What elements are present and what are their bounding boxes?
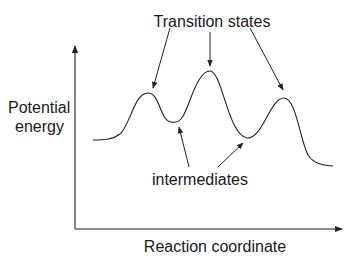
ts-arrow-3 (250, 28, 283, 90)
intermediates-label: intermediates (152, 171, 248, 188)
energy-curve (93, 71, 333, 166)
energy-diagram: Transition states intermediates Potentia… (0, 0, 349, 262)
y-axis-label-line2: energy (15, 118, 64, 135)
x-axis-label: Reaction coordinate (144, 238, 286, 255)
int-arrow-2 (218, 143, 243, 167)
int-arrow-1 (179, 127, 189, 167)
y-axis-label-line1: Potential (8, 99, 70, 116)
ts-arrow-1 (153, 28, 170, 88)
transition-states-label: Transition states (154, 13, 271, 30)
